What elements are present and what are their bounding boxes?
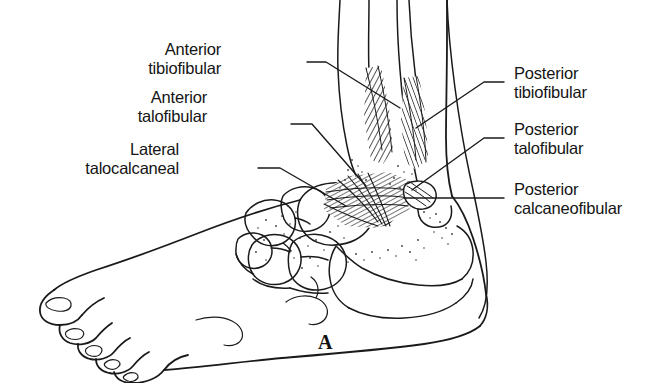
label-line-1: Anterior	[148, 40, 221, 59]
label-anterior-tibiofibular: Anterior tibiofibular	[148, 40, 221, 78]
plantar-detail	[196, 277, 327, 346]
figure-panel-letter: A	[318, 331, 332, 354]
label-line-2: calcaneofibular	[514, 199, 622, 218]
label-posterior-tibiofibular: Posterior tibiofibular	[514, 64, 587, 102]
label-line-1: Posterior	[514, 180, 622, 199]
label-line-1: Lateral	[85, 140, 179, 159]
label-line-1: Posterior	[514, 120, 583, 139]
label-line-2: tibiofibular	[148, 59, 221, 78]
label-line-2: talocalcaneal	[85, 159, 179, 178]
label-line-2: talofibular	[514, 139, 583, 158]
anatomical-figure: Anterior tibiofibular Anterior talofibul…	[0, 0, 662, 383]
ligament-bands	[316, 60, 440, 234]
label-line-1: Posterior	[514, 64, 587, 83]
label-posterior-calcaneofibular: Posterior calcaneofibular	[514, 180, 622, 218]
label-posterior-talofibular: Posterior talofibular	[514, 120, 583, 158]
label-line-1: Anterior	[138, 88, 207, 107]
anterior-tibiofibular-ligament	[355, 60, 407, 175]
label-lateral-talocalcaneal: Lateral talocalcaneal	[85, 140, 179, 178]
calcaneus-outline	[329, 226, 473, 318]
label-anterior-talofibular: Anterior talofibular	[138, 88, 207, 126]
toenails	[46, 298, 138, 382]
label-line-2: talofibular	[138, 107, 207, 126]
label-line-2: tibiofibular	[514, 83, 587, 102]
